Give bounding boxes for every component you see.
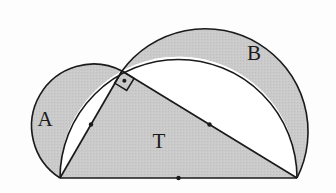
geometry-figure-svg: A B T: [0, 0, 336, 193]
midpoint-dot-left-leg: [89, 122, 93, 126]
label-lune-a: A: [37, 107, 53, 131]
geometry-figure-root: A B T: [0, 0, 336, 193]
label-lune-b: B: [247, 41, 261, 65]
label-triangle-t: T: [153, 129, 166, 153]
right-angle-dot: [122, 79, 126, 83]
midpoint-dot-hypotenuse: [176, 176, 180, 180]
midpoint-dot-right-leg: [207, 122, 211, 126]
